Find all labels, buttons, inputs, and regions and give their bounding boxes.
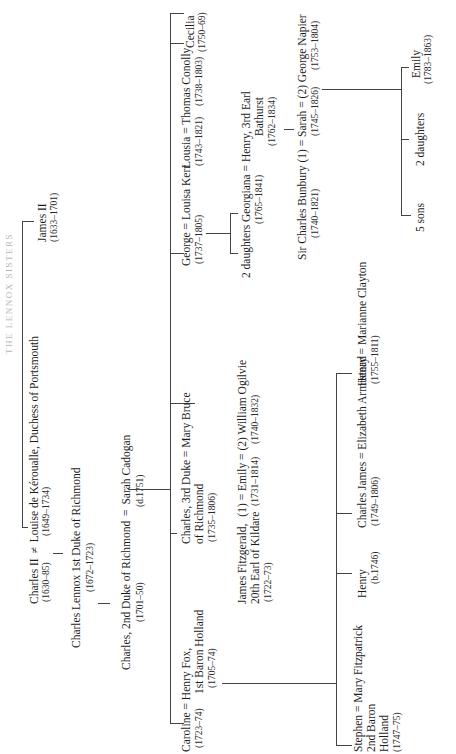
- spouse-louise: Louise de Kéroualle, Duchess of Portsmou…: [28, 336, 40, 542]
- connector-line: [336, 573, 352, 574]
- stephen-title-line3: Holland: [378, 715, 391, 752]
- dates-caroline: (1723–74): [194, 708, 205, 748]
- dates-henry-fox: (1705–74): [207, 648, 218, 688]
- name: Georgiana: [240, 174, 252, 222]
- person-henry-fox-2: Henry = Marianne Clayton: [356, 262, 369, 386]
- name: Charles II: [28, 558, 40, 604]
- connector-line: [222, 683, 330, 684]
- name: Lousia: [180, 137, 192, 168]
- bathurst-line2: Bathurst: [253, 97, 266, 136]
- marriage-symbol: =: [120, 509, 132, 516]
- marriage-number: (1): [296, 149, 308, 162]
- family-tree-page: THE LENNOX SISTERS Charles II ≠ Louise d…: [0, 0, 456, 754]
- dates-james-fitzgerald: (1722–73): [263, 562, 274, 602]
- sibling-bar: [170, 14, 171, 724]
- spouse-george-napier: (2) George Napier: [296, 14, 308, 98]
- marriage-number: (1): [236, 503, 248, 516]
- person-charles-2nd-duke: Charles, 2nd Duke of Richmond = Sarah Ca…: [120, 435, 133, 670]
- dates-louise: (1649–1734): [41, 487, 52, 536]
- name: Caroline: [180, 712, 192, 752]
- person-caroline: Caroline = Henry Fox,: [180, 602, 193, 752]
- dates-henry-fox-jr: (b.1746): [370, 552, 381, 584]
- person-charles-3rd-duke: Charles, 3rd Duke = Mary Bruce: [180, 393, 193, 545]
- person-cecilia: Cecilia: [184, 15, 197, 48]
- person-emily: Emily: [236, 463, 248, 491]
- connector-line: [336, 373, 352, 374]
- dates-henry-fox-2: (1755–1811): [370, 335, 381, 384]
- connector-line: [22, 221, 34, 222]
- person-james-ii: James II: [36, 203, 49, 242]
- connector-line: [336, 513, 352, 514]
- spouse-sarah-cadogan: Sarah Cadogan: [120, 435, 132, 505]
- connector-line: [322, 89, 401, 90]
- marriage-symbol: ≠: [28, 547, 40, 553]
- dates-james-ii: (1633–1701): [49, 193, 60, 242]
- sarah-5-sons: 5 sons: [414, 203, 427, 232]
- george-2-daughters: 2 daughters: [240, 225, 253, 278]
- dates-william-ogilvie: (1740–1832): [250, 395, 261, 444]
- dates-charles-3rd: (1735–1806): [207, 493, 218, 542]
- dates-charles-lennox: (1672–1723): [85, 543, 96, 592]
- person-emily-napier: Emily: [410, 50, 423, 78]
- connector-line: [53, 553, 63, 554]
- dates-sarah-cadogan: (d.1751): [135, 475, 146, 507]
- connector-line: [230, 214, 231, 254]
- connector-line: [170, 13, 184, 14]
- page-title: THE LENNOX SISTERS: [4, 233, 14, 354]
- dates-charles-ii: (1630–85): [41, 562, 52, 602]
- person-lousia: Lousia = Thomas Conolly: [180, 48, 193, 168]
- connector-line: [22, 222, 23, 528]
- connector-line: [128, 489, 170, 490]
- dates-bunbury: (1740–1821): [310, 189, 321, 238]
- connector-line: [401, 139, 409, 140]
- dates-george: (1737–1805): [194, 215, 205, 264]
- name: Henry: [356, 357, 368, 386]
- name: James Fitzgerald,: [236, 524, 248, 604]
- dates-charles-2nd: (1701–50): [135, 582, 146, 622]
- connector-line: [401, 67, 409, 68]
- dates-thomas-conolly: (1738–1803): [194, 57, 205, 106]
- name: Charles, 3rd Duke: [180, 460, 192, 544]
- dates-henry-bathurst: (1762–1834): [267, 97, 278, 146]
- dates-stephen: (1747–75): [392, 712, 403, 752]
- connector-line: [230, 213, 238, 214]
- connector-line: [230, 253, 238, 254]
- dates-cecilia: (1750–69): [197, 12, 208, 52]
- person-sarah: Sarah: [296, 111, 308, 137]
- spouse-mary-fitzpatrick: Mary Fitzpatrick: [352, 625, 364, 703]
- sibling-bar: [336, 374, 337, 746]
- dates-charles-james: (1749–1806): [370, 477, 381, 526]
- dates-emily-napier: (1783–1863): [423, 35, 434, 84]
- spouse-mary-bruce: Mary Bruce: [180, 393, 192, 448]
- dates-george-napier: (1753–1804): [310, 21, 321, 70]
- name: Stephen: [352, 715, 364, 752]
- spouse-henry-bathurst: Henry, 3rd Earl: [240, 91, 252, 162]
- henry-fox-title: 1st Baron Holland: [193, 610, 206, 694]
- person-charles-lennox: Charles Lennox 1st Duke of Richmond: [70, 468, 83, 648]
- person-stephen: Stephen = Mary Fitzpatrick: [352, 625, 365, 752]
- person-henry-fox-jr: Henry: [356, 569, 369, 598]
- children-bar: [401, 68, 402, 216]
- connector-line: [98, 603, 110, 604]
- dates-emily: (1731–1814): [250, 457, 261, 506]
- connector-line: [170, 43, 184, 44]
- spouse-william-ogilvie: (2) William Ogilvie: [236, 360, 248, 451]
- name: George: [180, 232, 192, 266]
- connector-line: [170, 533, 177, 534]
- spouse-thomas-conolly: Thomas Conolly: [180, 48, 192, 125]
- name: Sir Charles Bunbury: [296, 165, 308, 260]
- person-sir-charles-bunbury: Sir Charles Bunbury (1) = Sarah = (2) Ge…: [296, 14, 309, 260]
- name: Charles James: [356, 462, 368, 528]
- connector-line: [401, 215, 411, 216]
- person-georgiana: Georgiana = Henry, 3rd Earl: [240, 91, 253, 222]
- dates-lousia: (1743–1821): [194, 117, 205, 166]
- person-charles-ii: Charles II ≠ Louise de Kéroualle, Duches…: [28, 336, 41, 604]
- connector-line: [330, 683, 336, 684]
- dates-georgiana: (1765–1841): [254, 175, 265, 224]
- spouse-marianne-clayton: Marianne Clayton: [356, 262, 368, 345]
- connector-line: [284, 129, 294, 130]
- connector-line: [336, 745, 352, 746]
- spouse-henry-fox: Henry Fox,: [180, 648, 192, 700]
- charles-3rd-title: of Richmond: [193, 484, 206, 544]
- connector-line: [206, 233, 230, 234]
